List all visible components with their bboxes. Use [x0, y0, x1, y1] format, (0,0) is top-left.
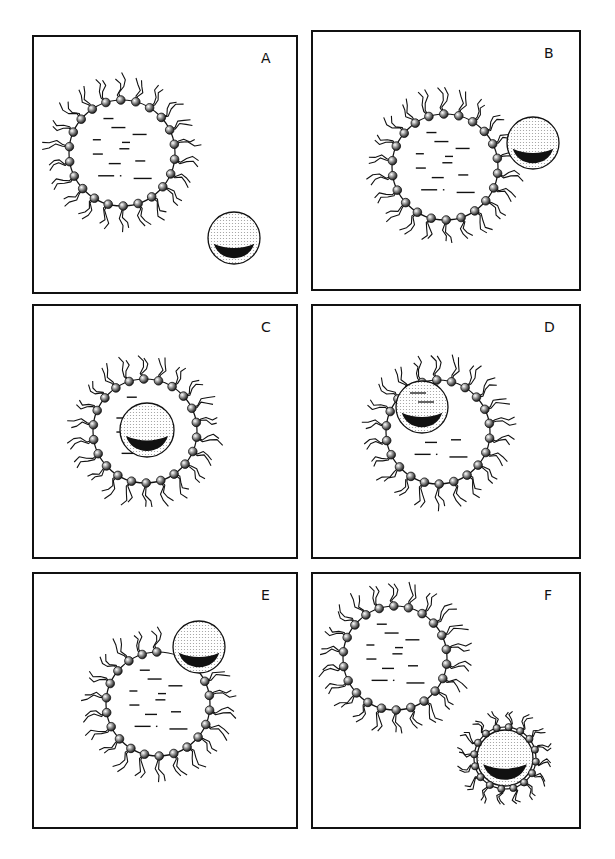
head-group-icon	[388, 156, 397, 165]
head-group-icon	[183, 743, 192, 752]
head-group-icon	[104, 200, 113, 209]
head-group-icon	[461, 383, 470, 392]
head-group-icon	[439, 674, 448, 683]
head-group-icon	[192, 418, 201, 427]
head-group-icon	[395, 463, 404, 472]
head-group-icon	[352, 689, 361, 698]
head-group-icon	[170, 470, 179, 479]
panel-e: E	[33, 573, 297, 828]
head-group-icon	[69, 128, 78, 137]
head-group-icon	[140, 750, 149, 759]
head-group-icon	[407, 472, 416, 481]
head-group-icon	[170, 155, 179, 164]
panel-label: A	[261, 50, 271, 66]
head-group-icon	[521, 779, 528, 786]
head-group-icon	[125, 657, 134, 666]
head-group-icon	[471, 751, 478, 758]
panel-label: D	[544, 319, 555, 335]
head-group-icon	[433, 376, 442, 385]
head-group-icon	[101, 394, 110, 403]
head-group-icon	[140, 375, 149, 384]
head-group-icon	[117, 96, 126, 105]
head-group-icon	[481, 405, 490, 414]
head-group-icon	[107, 722, 116, 731]
head-group-icon	[526, 735, 533, 742]
head-group-icon	[343, 633, 352, 642]
head-group-icon	[155, 752, 164, 761]
panel-b: B	[312, 31, 580, 290]
panel-d: D	[312, 305, 580, 558]
head-group-icon	[112, 384, 121, 393]
head-group-icon	[339, 662, 348, 671]
head-group-icon	[493, 725, 500, 732]
head-group-icon	[472, 763, 479, 770]
panel-label: C	[261, 319, 271, 335]
head-group-icon	[102, 694, 111, 703]
panel-a: A	[33, 36, 297, 293]
particle	[173, 621, 225, 673]
head-group-icon	[202, 720, 211, 729]
head-group-icon	[165, 126, 174, 135]
head-group-icon	[450, 477, 459, 486]
head-group-icon	[418, 609, 427, 618]
head-group-icon	[420, 697, 429, 706]
head-group-icon	[517, 727, 524, 734]
head-group-icon	[138, 650, 147, 659]
head-group-icon	[132, 98, 141, 107]
head-group-icon	[474, 461, 483, 470]
head-group-icon	[482, 197, 491, 206]
head-group-icon	[455, 112, 464, 121]
head-group-icon	[493, 169, 502, 178]
head-group-icon	[485, 419, 494, 428]
head-group-icon	[179, 392, 188, 401]
panel-label: F	[544, 587, 552, 603]
head-group-icon	[119, 202, 128, 211]
head-group-icon	[93, 406, 102, 415]
head-group-icon	[65, 157, 74, 166]
head-group-icon	[505, 724, 512, 731]
head-group-icon	[489, 184, 498, 193]
head-group-icon	[528, 770, 535, 777]
head-group-icon	[102, 462, 111, 471]
head-group-icon	[114, 471, 123, 480]
head-group-icon	[388, 171, 397, 180]
head-group-icon	[205, 706, 214, 715]
head-group-icon	[157, 476, 166, 485]
head-group-icon	[531, 746, 538, 753]
head-group-icon	[125, 377, 134, 386]
head-group-icon	[362, 611, 371, 620]
head-group-icon	[510, 784, 517, 791]
head-group-icon	[401, 198, 410, 207]
head-group-icon	[194, 733, 203, 742]
panel-f: F	[312, 573, 580, 828]
head-group-icon	[442, 645, 451, 654]
head-group-icon	[78, 184, 87, 193]
head-group-icon	[168, 382, 177, 391]
head-group-icon	[485, 434, 494, 443]
head-group-icon	[153, 648, 162, 657]
head-group-icon	[498, 785, 505, 792]
head-group-icon	[377, 704, 386, 713]
head-group-icon	[463, 471, 472, 480]
head-group-icon	[127, 477, 136, 486]
head-group-icon	[404, 604, 413, 613]
head-group-icon	[90, 194, 99, 203]
head-group-icon	[188, 404, 197, 413]
head-group-icon	[457, 213, 466, 222]
head-group-icon	[425, 112, 434, 121]
head-group-icon	[351, 621, 360, 630]
head-group-icon	[442, 660, 451, 669]
figure: ABCDEF	[0, 0, 615, 859]
panel-frame	[312, 305, 580, 558]
head-group-icon	[114, 667, 123, 676]
head-group-icon	[480, 127, 489, 136]
head-group-icon	[472, 393, 481, 402]
head-group-icon	[170, 749, 179, 758]
head-group-icon	[205, 691, 214, 700]
head-group-icon	[339, 648, 348, 657]
head-group-icon	[102, 708, 111, 717]
head-group-icon	[88, 105, 97, 114]
head-group-icon	[386, 407, 395, 416]
head-group-icon	[477, 774, 484, 781]
head-group-icon	[364, 698, 373, 707]
